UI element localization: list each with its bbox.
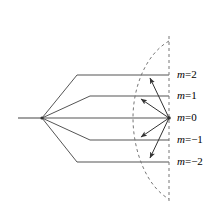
m-symbol-m2: m [177, 68, 185, 80]
m-symbol-m0: m [177, 111, 185, 123]
fanout-line-m-2 [42, 118, 77, 162]
m-symbol-m-2: m [177, 155, 185, 167]
dashed-arc [133, 41, 169, 199]
angular-momentum-diagram: m=2 m=1 m=0 m=−1 m=−2 [0, 0, 218, 212]
m-relation-m-1: =−1 [185, 133, 203, 145]
diagram-canvas [0, 0, 218, 212]
m-relation-m2: =2 [185, 68, 197, 80]
level-label-m2: m=2 [177, 69, 197, 80]
fanout-line-m-1 [42, 118, 90, 140]
level-label-m0: m=0 [177, 112, 197, 123]
fanout-line-m2 [42, 75, 77, 118]
level-label-m-2: m=−2 [177, 156, 203, 167]
m-relation-m0: =0 [185, 111, 197, 123]
level-label-m1: m=1 [177, 90, 197, 101]
m-relation-m1: =1 [185, 89, 197, 101]
m-relation-m-2: =−2 [185, 155, 203, 167]
m-symbol-m1: m [177, 89, 185, 101]
fanout-line-m1 [42, 96, 90, 118]
left-vertex-dot [40, 116, 43, 119]
right-vertex-dot [167, 116, 171, 120]
m-symbol-m-1: m [177, 133, 185, 145]
level-label-m-1: m=−1 [177, 134, 203, 145]
